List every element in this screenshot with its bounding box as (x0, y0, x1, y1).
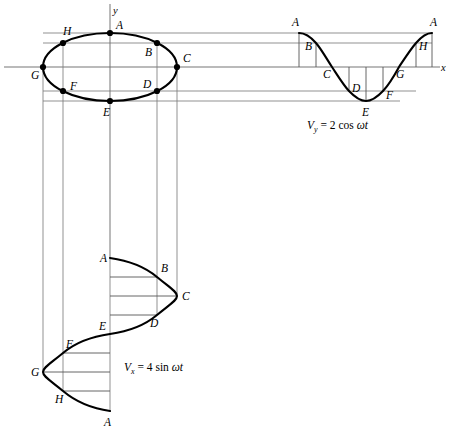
ellipse-dot-C (174, 64, 180, 70)
sine-point-labels: A B C D E F G H A (31, 252, 190, 428)
sin-label-A2: A (103, 416, 112, 428)
cos-label-C: C (323, 68, 331, 80)
ellipse-label-B: B (145, 46, 152, 58)
ellipse-label-D: D (142, 78, 152, 90)
cos-label-E: E (361, 106, 369, 118)
figure-canvas: x y A B C D (0, 0, 455, 431)
cos-label-A: A (291, 16, 300, 28)
ellipse-label-G: G (31, 69, 40, 81)
sin-label-E: E (98, 320, 106, 332)
ellipse-label-E: E (102, 106, 110, 118)
ellipse-dot-G (40, 64, 46, 70)
cos-eq-rest: = 2 cos (318, 119, 357, 131)
y-axis-label: y (112, 5, 118, 16)
ellipse-dot-E (107, 98, 113, 104)
sin-label-H: H (54, 393, 64, 405)
ellipse-label-F: F (69, 80, 78, 92)
diagram-svg: x y A B C D (0, 0, 455, 431)
ellipse-dot-A (107, 30, 113, 36)
sin-eq-rest: = 4 sin (135, 361, 172, 373)
ellipse-label-H: H (62, 25, 72, 37)
x-axis-label: x (440, 62, 446, 73)
sin-label-D: D (149, 317, 159, 329)
sine-equation-label: Vx = 4 sin ωt (124, 361, 184, 376)
ellipse-dot-D (154, 88, 160, 94)
cos-label-F: F (385, 89, 394, 101)
cos-eq-omega: ωt (357, 119, 369, 131)
cos-label-D: D (351, 82, 361, 94)
cosine-equation-label: Vy = 2 cos ωt (307, 119, 369, 134)
ellipse-dot-F (60, 88, 66, 94)
ellipse-dot-B (154, 40, 160, 46)
cos-label-B: B (305, 40, 312, 52)
sin-eq-omega: ωt (172, 361, 184, 373)
sin-label-G: G (31, 366, 40, 378)
ellipse-dot-H (60, 40, 66, 46)
cos-label-G: G (396, 68, 405, 80)
cos-label-A2: A (429, 16, 438, 28)
sin-label-B: B (161, 262, 168, 274)
sin-label-F: F (65, 338, 74, 350)
sin-label-A: A (99, 252, 108, 264)
cos-label-H: H (418, 40, 428, 52)
ellipse-label-A: A (115, 19, 124, 31)
sin-label-C: C (182, 290, 190, 302)
ellipse-label-C: C (183, 52, 191, 64)
